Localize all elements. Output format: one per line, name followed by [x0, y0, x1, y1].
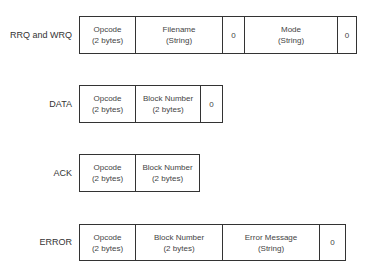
field-size: (2 bytes) — [92, 243, 123, 254]
field-size: (2 bytes) — [92, 104, 123, 115]
field-opcode: Opcode (2 bytes) — [80, 86, 136, 122]
packet-label-error: ERROR — [2, 237, 72, 247]
field-size: (String) — [258, 243, 284, 254]
field-title: Opcode — [93, 93, 121, 104]
field-title: 0 — [345, 30, 349, 41]
field-size: (2 bytes) — [152, 104, 183, 115]
packet-data: Opcode (2 bytes) Block Number (2 bytes) … — [79, 85, 223, 123]
field-size: (2 bytes) — [92, 173, 123, 184]
field-size: (String) — [278, 35, 304, 46]
field-error-message: Error Message (String) — [223, 225, 320, 260]
field-opcode: Opcode (2 bytes) — [80, 17, 136, 53]
field-terminator: 0 — [320, 225, 345, 260]
field-title: Block Number — [154, 232, 204, 243]
field-terminator: 0 — [223, 17, 245, 53]
field-title: Opcode — [93, 24, 121, 35]
field-size: (2 bytes) — [163, 243, 194, 254]
packet-label-rrq-wrq: RRQ and WRQ — [2, 30, 72, 40]
packet-rrq-wrq: Opcode (2 bytes) Filename (String) 0 Mod… — [79, 16, 357, 54]
field-terminator: 0 — [201, 86, 222, 122]
packet-ack: Opcode (2 bytes) Block Number (2 bytes) — [79, 154, 200, 192]
field-opcode: Opcode (2 bytes) — [80, 155, 136, 191]
field-title: Opcode — [93, 232, 121, 243]
field-title: Block Number — [142, 162, 192, 173]
field-title: Filename — [163, 24, 196, 35]
packet-label-ack: ACK — [2, 168, 72, 178]
field-title: Block Number — [143, 93, 193, 104]
field-block-number: Block Number (2 bytes) — [136, 86, 201, 122]
field-size: (String) — [166, 35, 192, 46]
field-title: Mode — [281, 24, 301, 35]
field-title: 0 — [330, 237, 334, 248]
field-filename: Filename (String) — [136, 17, 223, 53]
field-opcode: Opcode (2 bytes) — [80, 225, 136, 260]
field-size: (2 bytes) — [152, 173, 183, 184]
field-mode: Mode (String) — [245, 17, 338, 53]
field-block-number: Block Number (2 bytes) — [136, 225, 223, 260]
packet-error: Opcode (2 bytes) Block Number (2 bytes) … — [79, 224, 346, 261]
field-size: (2 bytes) — [92, 35, 123, 46]
field-title: 0 — [231, 30, 235, 41]
field-title: Error Message — [245, 232, 297, 243]
field-title: Opcode — [93, 162, 121, 173]
field-title: 0 — [209, 99, 213, 110]
field-block-number: Block Number (2 bytes) — [136, 155, 199, 191]
field-terminator: 0 — [338, 17, 356, 53]
packet-label-data: DATA — [2, 99, 72, 109]
